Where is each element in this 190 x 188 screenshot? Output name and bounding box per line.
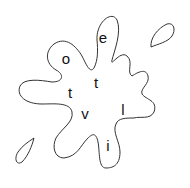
splat-shape [19,16,155,168]
splat-puzzle: e o t t v l i [0,0,190,188]
droplet-bottom-left [16,138,34,163]
puzzle-letter-i: i [106,138,109,153]
puzzle-letter-t-left: t [68,85,72,100]
puzzle-letter-e: e [99,30,107,45]
puzzle-letter-o: o [62,51,70,66]
puzzle-letter-t-upper: t [94,75,98,90]
puzzle-letter-l: l [121,102,124,117]
splat-outline [0,0,190,188]
puzzle-letter-v: v [81,106,89,121]
droplet-top-right [151,24,174,47]
